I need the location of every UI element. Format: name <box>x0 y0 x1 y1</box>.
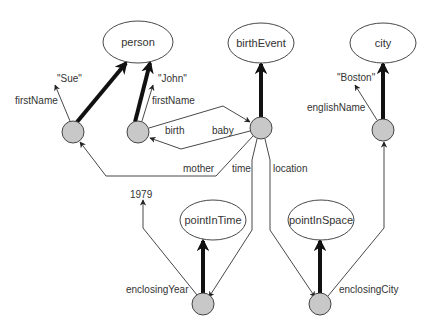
year-literal: 1979 <box>130 189 153 200</box>
class-label: pointInSpace <box>289 214 353 226</box>
class-label: person <box>121 36 155 48</box>
class-node-city: city <box>350 23 416 63</box>
john-literal: "John" <box>158 73 187 84</box>
edge-label-baby: baby <box>212 125 234 136</box>
instance-node-birth1 <box>250 117 272 139</box>
class-node-pointInSpace: pointInSpace <box>288 200 354 240</box>
instance-node-boston <box>372 119 394 141</box>
edge-label-enclosingCity: enclosingCity <box>339 284 398 295</box>
class-node-birthEvent: birthEvent <box>228 23 294 63</box>
type-edge-sue-person <box>77 63 126 122</box>
diagram-svg: personbirthEventcitypointInTimepointInSp… <box>0 0 431 329</box>
boston-literal: "Boston" <box>337 72 376 83</box>
sue-literal: "Sue" <box>57 73 82 84</box>
edge-label-john-firstName: firstName <box>152 95 195 106</box>
edge-label-mother: mother <box>183 163 215 174</box>
edge-label-location: location <box>273 163 307 174</box>
class-label: city <box>375 37 392 49</box>
instance-node-john <box>127 121 149 143</box>
edge-label-enclosingYear: enclosingYear <box>126 284 189 295</box>
class-label: pointInTime <box>184 214 241 226</box>
edge-mother <box>80 136 253 176</box>
instance-node-time1 <box>192 293 214 315</box>
edge-label-birth: birth <box>165 125 184 136</box>
edge-label-sue-firstName: firstName <box>15 95 58 106</box>
type-edges <box>77 63 383 293</box>
edge-label-time: time <box>232 163 251 174</box>
type-edge-john-person <box>135 63 150 122</box>
instance-node-space1 <box>309 293 331 315</box>
rdf-graph-diagram: personbirthEventcitypointInTimepointInSp… <box>0 0 431 329</box>
property-edges <box>55 85 384 297</box>
class-node-person: person <box>103 21 173 63</box>
class-node-pointInTime: pointInTime <box>180 200 246 240</box>
edge-label-englishName: englishName <box>307 102 366 113</box>
class-label: birthEvent <box>236 37 286 49</box>
instance-node-sue <box>62 121 84 143</box>
